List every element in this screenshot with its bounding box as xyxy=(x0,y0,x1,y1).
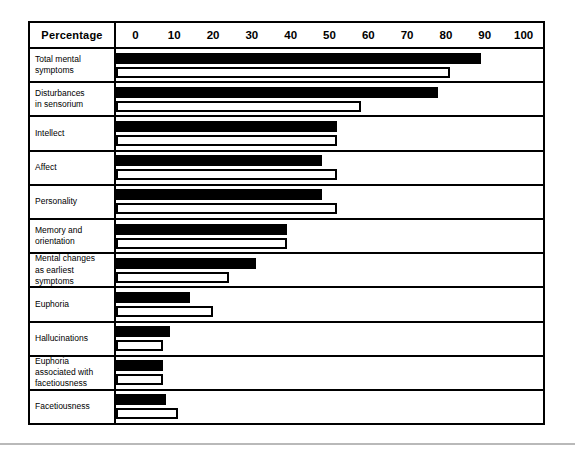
bar-gap xyxy=(116,337,543,340)
table-row: Total mentalsymptoms xyxy=(30,49,543,83)
axis-title-percentage: Percentage xyxy=(30,23,116,47)
table-row: Euphoriaassociated withfacetiousness xyxy=(30,357,543,391)
x-tick-0: 0 xyxy=(132,23,138,47)
row-label: Personality xyxy=(30,186,116,218)
row-plot-area xyxy=(116,49,543,81)
row-label-text: Euphoria xyxy=(35,299,69,310)
bar-hollow xyxy=(116,101,361,112)
row-plot-area xyxy=(116,220,543,252)
row-plot-area xyxy=(116,254,543,286)
bar-hollow xyxy=(116,238,287,249)
x-axis: 0102030405060708090100 xyxy=(116,23,543,47)
row-label: Euphoria xyxy=(30,288,116,320)
bar-solid xyxy=(116,53,481,64)
bar-solid xyxy=(116,155,322,166)
bar-hollow xyxy=(116,272,229,283)
row-plot-area xyxy=(116,323,543,355)
row-label: Euphoriaassociated withfacetiousness xyxy=(30,357,116,389)
row-label-text: Facetiousness xyxy=(35,401,90,412)
table-row: Disturbancesin sensorium xyxy=(30,83,543,117)
bar-hollow xyxy=(116,135,337,146)
bar-solid xyxy=(116,360,163,371)
bar-hollow xyxy=(116,340,163,351)
x-tick-20: 20 xyxy=(207,23,220,47)
x-tick-30: 30 xyxy=(245,23,258,47)
table-row: Personality xyxy=(30,186,543,220)
row-plot-area xyxy=(116,186,543,218)
x-tick-60: 60 xyxy=(362,23,375,47)
row-label: Intellect xyxy=(30,117,116,149)
bar-hollow xyxy=(116,306,213,317)
x-tick-100: 100 xyxy=(514,23,533,47)
row-label-text: Intellect xyxy=(35,128,64,139)
row-label: Facetiousness xyxy=(30,391,116,423)
row-label: Affect xyxy=(30,152,116,184)
table-row: Memory andorientation xyxy=(30,220,543,254)
row-label-text: Affect xyxy=(35,162,57,173)
row-plot-area xyxy=(116,152,543,184)
chart-rows: Total mentalsymptomsDisturbancesin senso… xyxy=(30,49,543,423)
row-label-text: Disturbancesin sensorium xyxy=(35,88,85,110)
x-tick-80: 80 xyxy=(440,23,453,47)
bar-hollow xyxy=(116,169,337,180)
table-row: Mental changesas earliestsymptoms xyxy=(30,254,543,288)
row-label: Memory andorientation xyxy=(30,220,116,252)
x-tick-70: 70 xyxy=(401,23,414,47)
x-tick-90: 90 xyxy=(478,23,491,47)
bar-hollow xyxy=(116,408,178,419)
bar-hollow xyxy=(116,203,337,214)
row-label: Total mentalsymptoms xyxy=(30,49,116,81)
row-label-text: Total mentalsymptoms xyxy=(35,54,81,76)
row-label-text: Personality xyxy=(35,196,77,207)
chart-frame: Percentage 0102030405060708090100 Total … xyxy=(28,21,545,425)
bar-solid xyxy=(116,224,287,235)
table-row: Intellect xyxy=(30,117,543,151)
row-label-text: Memory andorientation xyxy=(35,225,82,247)
row-plot-area xyxy=(116,391,543,423)
table-row: Affect xyxy=(30,152,543,186)
page-divider-rule xyxy=(0,443,575,445)
row-label-text: Hallucinations xyxy=(35,333,88,344)
table-row: Facetiousness xyxy=(30,391,543,423)
bar-hollow xyxy=(116,67,450,78)
row-label: Mental changesas earliestsymptoms xyxy=(30,254,116,286)
bar-solid xyxy=(116,189,322,200)
bar-solid xyxy=(116,326,170,337)
row-label-text: Mental changesas earliestsymptoms xyxy=(35,253,95,287)
bar-hollow xyxy=(116,374,163,385)
chart-header-row: Percentage 0102030405060708090100 xyxy=(30,23,543,49)
x-tick-50: 50 xyxy=(323,23,336,47)
x-tick-40: 40 xyxy=(284,23,297,47)
row-label-text: Euphoriaassociated withfacetiousness xyxy=(35,356,93,390)
row-plot-area xyxy=(116,288,543,320)
row-label: Hallucinations xyxy=(30,323,116,355)
table-row: Euphoria xyxy=(30,288,543,322)
bar-solid xyxy=(116,258,256,269)
x-tick-10: 10 xyxy=(168,23,181,47)
row-plot-area xyxy=(116,83,543,115)
bar-solid xyxy=(116,121,337,132)
bar-solid xyxy=(116,87,438,98)
bar-solid xyxy=(116,292,190,303)
bar-gap xyxy=(116,405,543,408)
row-label: Disturbancesin sensorium xyxy=(30,83,116,115)
bar-solid xyxy=(116,394,166,405)
row-plot-area xyxy=(116,117,543,149)
bar-gap xyxy=(116,371,543,374)
row-plot-area xyxy=(116,357,543,389)
table-row: Hallucinations xyxy=(30,323,543,357)
